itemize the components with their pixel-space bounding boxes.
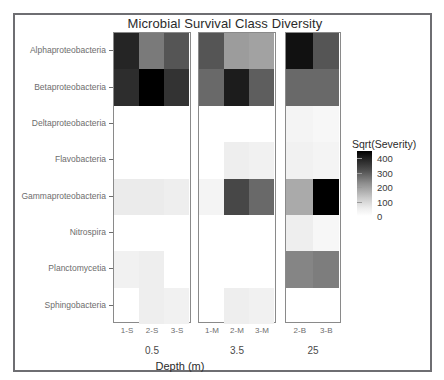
- heatmap-cell: [249, 69, 274, 105]
- panel-strip-label-25: 25: [285, 345, 341, 356]
- y-tick-label-Deltaproteobacteria: Deltaproteobacteria: [32, 118, 106, 128]
- y-tick-mark: [109, 196, 113, 197]
- heatmap-cell: [224, 179, 249, 215]
- y-tick-label-Betaproteobacteria: Betaproteobacteria: [34, 82, 106, 92]
- heatmap-cell: [139, 251, 164, 287]
- heatmap-cell: [139, 33, 164, 69]
- heatmap-cell: [139, 288, 164, 324]
- x-axis-title: Depth (m): [0, 360, 360, 372]
- heatmap-cell: [313, 106, 340, 142]
- x-tick-label-3-M: 3-M: [250, 326, 275, 335]
- y-tick-label-Nitrospira: Nitrospira: [70, 227, 106, 237]
- heatmap-cell: [224, 33, 249, 69]
- heatmap-cell: [313, 69, 340, 105]
- y-tick-mark: [109, 50, 113, 51]
- heatmap-cell: [313, 179, 340, 215]
- heatmap-cell: [224, 142, 249, 178]
- heatmap-cell: [139, 69, 164, 105]
- heatmap-cell: [139, 179, 164, 215]
- heatmap-cell: [199, 179, 224, 215]
- legend-tick-label-300: 300: [377, 167, 393, 178]
- y-tick-mark: [109, 268, 113, 269]
- heatmap-panel-3.5: [198, 32, 276, 323]
- y-tick-mark: [109, 123, 113, 124]
- legend-tick-label-400: 400: [377, 153, 393, 164]
- heatmap-cell: [249, 142, 274, 178]
- x-tick-label-3-S: 3-S: [165, 326, 190, 335]
- x-tick-label-2-B: 2-B: [287, 326, 314, 335]
- legend-tick-label-0: 0: [377, 211, 382, 222]
- panel-cells: [199, 33, 275, 322]
- heatmap-cell: [164, 179, 189, 215]
- heatmap-cell: [114, 69, 139, 105]
- x-tick-label-3-B: 3-B: [313, 326, 340, 335]
- legend-title: Sqrt(Severity): [352, 138, 416, 150]
- heatmap-cell: [286, 69, 313, 105]
- y-tick-label-Flavobacteria: Flavobacteria: [55, 154, 106, 164]
- legend-tick-mark: [357, 202, 362, 203]
- heatmap-cell: [313, 215, 340, 251]
- heatmap-cell: [313, 142, 340, 178]
- y-tick-mark: [109, 232, 113, 233]
- heatmap-cell: [164, 69, 189, 105]
- legend-colorbar: [357, 151, 372, 216]
- heatmap-cell: [286, 215, 313, 251]
- y-tick-label-Gammaproteobacteria: Gammaproteobacteria: [21, 191, 106, 201]
- x-tick-label-1-M: 1-M: [200, 326, 225, 335]
- panel-cells: [114, 33, 190, 322]
- y-tick-mark: [109, 305, 113, 306]
- heatmap-cell: [249, 33, 274, 69]
- heatmap-cell: [286, 179, 313, 215]
- heatmap-cell: [114, 33, 139, 69]
- heatmap-cell: [313, 251, 340, 287]
- heatmap-cell: [199, 33, 224, 69]
- x-tick-label-2-S: 2-S: [140, 326, 165, 335]
- y-tick-label-Sphingobacteria: Sphingobacteria: [45, 300, 106, 310]
- heatmap-cell: [224, 288, 249, 324]
- chart-root: Microbial Survival Class Diversity 1-S2-…: [0, 0, 444, 380]
- heatmap-cell: [114, 251, 139, 287]
- legend-tick-mark: [357, 173, 362, 174]
- legend-tick-mark: [357, 158, 362, 159]
- heatmap-cell: [286, 33, 313, 69]
- heatmap-cell: [313, 33, 340, 69]
- legend-tick-label-100: 100: [377, 196, 393, 207]
- legend-tick-mark: [357, 187, 362, 188]
- y-tick-mark: [109, 87, 113, 88]
- x-tick-label-2-M: 2-M: [225, 326, 250, 335]
- heatmap-cell: [164, 288, 189, 324]
- heatmap-panel-0.5: [113, 32, 191, 323]
- heatmap-panel-25: [285, 32, 341, 323]
- heatmap-cell: [199, 69, 224, 105]
- y-tick-mark: [109, 159, 113, 160]
- heatmap-cell: [286, 106, 313, 142]
- legend-tick-label-200: 200: [377, 182, 393, 193]
- x-tick-label-1-S: 1-S: [115, 326, 140, 335]
- heatmap-cell: [164, 33, 189, 69]
- panel-cells: [286, 33, 340, 322]
- heatmap-cell: [286, 251, 313, 287]
- panel-strip-label-3.5: 3.5: [198, 345, 276, 356]
- heatmap-cell: [249, 179, 274, 215]
- heatmap-cell: [286, 142, 313, 178]
- heatmap-cell: [224, 69, 249, 105]
- y-tick-label-Planctomycetia: Planctomycetia: [48, 263, 106, 273]
- panel-strip-label-0.5: 0.5: [113, 345, 191, 356]
- heatmap-cell: [249, 288, 274, 324]
- heatmap-cell: [114, 179, 139, 215]
- y-tick-label-Alphaproteobacteria: Alphaproteobacteria: [30, 45, 106, 55]
